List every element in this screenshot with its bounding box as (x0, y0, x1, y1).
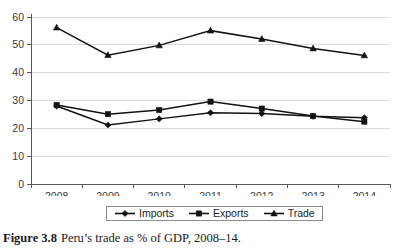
diamond-marker (105, 122, 111, 128)
chart-plot-area: 0102030405060 20082009201020112012201320… (0, 0, 399, 196)
line-chart: 0102030405060 20082009201020112012201320… (0, 0, 399, 196)
x-axis-tick-label: 2011 (199, 190, 222, 196)
series-imports (54, 103, 368, 128)
diamond-marker (122, 210, 128, 216)
gridlines-group (31, 17, 390, 156)
y-axis-tick-label: 20 (12, 122, 24, 134)
x-axis-tick-label: 2012 (250, 190, 274, 196)
square-marker (188, 205, 210, 223)
y-axis-ticks-group: 0102030405060 (12, 11, 31, 190)
square-marker (208, 99, 213, 104)
y-axis-tick-label: 30 (12, 94, 24, 106)
x-axis-tick-label: 2009 (96, 190, 120, 196)
data-series-group (53, 24, 367, 128)
legend-item-label: Exports (213, 208, 249, 219)
chart-legend: ImportsExportsTrade (106, 206, 323, 221)
diamond-marker (114, 205, 136, 223)
x-axis-tick-label: 2014 (353, 190, 377, 196)
square-marker (196, 210, 201, 215)
legend-item-label: Trade (288, 208, 315, 219)
y-axis-tick-label: 50 (12, 38, 24, 50)
y-axis-tick-label: 10 (12, 150, 24, 162)
x-axis-tick-label: 2010 (148, 190, 172, 196)
square-marker (259, 106, 264, 111)
figure-caption: Figure 3.8Peru’s trade as % of GDP, 2008… (3, 231, 395, 246)
square-marker (362, 119, 367, 124)
y-axis-tick-label: 0 (18, 178, 24, 190)
caption-text: Peru’s trade as % of GDP, 2008–14. (61, 231, 241, 245)
legend-item-imports[interactable]: Imports (114, 205, 174, 223)
diamond-marker (156, 116, 162, 122)
legend-item-label: Imports (139, 208, 174, 219)
caption-label: Figure 3.8 (3, 231, 57, 245)
triangle-marker (53, 24, 59, 30)
legend-item-trade[interactable]: Trade (263, 205, 315, 223)
legend-item-exports[interactable]: Exports (188, 205, 249, 223)
square-marker (54, 102, 59, 107)
square-marker (105, 112, 110, 117)
triangle-marker (207, 27, 213, 33)
x-axis-tick-label: 2008 (45, 190, 69, 196)
y-axis-tick-label: 40 (12, 66, 24, 78)
triangle-marker (263, 205, 285, 223)
diamond-marker (207, 110, 213, 116)
x-axis-tick-label: 2013 (301, 190, 325, 196)
y-axis-tick-label: 60 (12, 11, 24, 23)
series-trade (53, 24, 367, 58)
x-axis-ticks-group: 2008200920102011201220132014 (31, 184, 390, 196)
square-marker (157, 107, 162, 112)
square-marker (310, 113, 315, 118)
figure-container: 0102030405060 20082009201020112012201320… (0, 0, 399, 249)
